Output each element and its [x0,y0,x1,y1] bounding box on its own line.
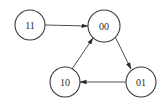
edge-10-to-00 [72,38,93,69]
node-00-label: 00 [99,21,109,32]
edge-00-to-01 [116,38,132,70]
node-10: 10 [50,67,80,97]
edge-11-to-00 [45,25,88,26]
node-01-label: 01 [136,77,146,88]
state-diagram: 11 00 10 01 [0,0,167,111]
node-01: 01 [126,67,156,97]
node-10-label: 10 [60,77,70,88]
node-00: 00 [88,10,120,42]
node-11: 11 [15,10,45,40]
node-11-label: 11 [25,20,35,31]
